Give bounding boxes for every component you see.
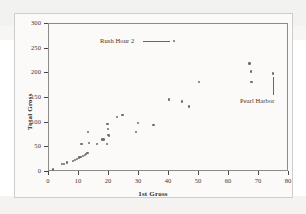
data-point (272, 72, 274, 74)
x-tick-mark (138, 171, 139, 175)
data-point (106, 143, 108, 145)
x-tick-mark (48, 171, 49, 175)
x-tick-mark (258, 171, 259, 175)
x-tick-mark (108, 171, 109, 175)
annotation-label: Rush Hour 2 (100, 37, 134, 44)
annotation-leader-line (273, 77, 274, 95)
x-tick-mark (198, 171, 199, 175)
data-point (80, 143, 82, 145)
data-point (102, 138, 104, 140)
x-tick-label: 20 (96, 177, 120, 184)
y-tick-label: 250 (14, 44, 41, 51)
y-tick-mark (44, 122, 48, 123)
data-point (248, 62, 250, 64)
x-tick-label: 40 (156, 177, 180, 184)
y-tick-label: 200 (14, 68, 41, 75)
x-tick-label: 30 (126, 177, 150, 184)
x-tick-label: 80 (276, 177, 300, 184)
x-tick-mark (288, 171, 289, 175)
x-tick-label: 10 (66, 177, 90, 184)
data-point (52, 168, 54, 170)
annotation-leader-line (143, 41, 170, 42)
y-tick-mark (44, 23, 48, 24)
data-point (121, 114, 123, 116)
y-tick-label: 50 (14, 142, 41, 149)
scatter-plot-figure: 050100150200250300 01020304050607080 Rus… (0, 0, 306, 214)
x-tick-mark (168, 171, 169, 175)
data-point (181, 100, 183, 102)
x-tick-label: 0 (36, 177, 60, 184)
y-tick-label: 0 (14, 167, 41, 174)
y-tick-mark (44, 97, 48, 98)
y-tick-mark (44, 146, 48, 147)
scan-band-bottom (0, 196, 306, 214)
data-point (250, 70, 252, 72)
y-tick-mark (44, 48, 48, 49)
data-point (188, 105, 190, 107)
data-point (250, 81, 252, 83)
x-tick-label: 60 (216, 177, 240, 184)
x-tick-mark (228, 171, 229, 175)
x-axis-title: 1st Gross (0, 190, 306, 198)
data-point (88, 142, 90, 144)
y-axis-title: Total Gross (26, 93, 34, 130)
data-point (86, 152, 88, 154)
data-point (106, 123, 108, 125)
x-tick-mark (78, 171, 79, 175)
x-tick-label: 50 (186, 177, 210, 184)
annotation-label: Pearl Harbor (240, 97, 275, 104)
y-tick-label: 300 (14, 19, 41, 26)
x-tick-label: 70 (246, 177, 270, 184)
y-tick-mark (44, 72, 48, 73)
